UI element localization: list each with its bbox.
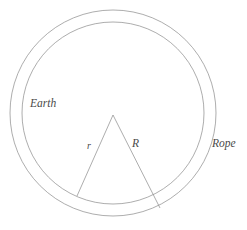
diagram-canvas — [0, 0, 247, 230]
earth-label: Earth — [30, 98, 56, 110]
radius-large-label: R — [132, 138, 139, 150]
rope-circle — [10, 10, 216, 216]
rope-label: Rope — [212, 138, 236, 150]
earth-circle — [22, 22, 204, 204]
radius-small-line — [77, 115, 113, 196]
earth-rope-figure: Earth Rope r R — [0, 0, 247, 230]
radius-small-label: r — [87, 141, 91, 151]
radius-large-line — [113, 115, 160, 208]
